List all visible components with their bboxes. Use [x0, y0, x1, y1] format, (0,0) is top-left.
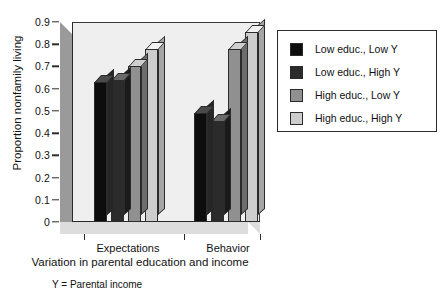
y-axis-tick-label: 0.3: [35, 149, 50, 161]
bar: [94, 82, 107, 222]
y-axis-tick-mark: [52, 21, 59, 22]
y-axis-tick-mark: [52, 155, 59, 156]
x-axis-tick-mark: [184, 234, 185, 240]
legend-label: High educ., Low Y: [315, 89, 400, 101]
legend-item[interactable]: High educ., Low Y: [290, 88, 400, 102]
bar-side: [107, 69, 114, 215]
y-axis-tick-label: 0.8: [35, 38, 50, 50]
legend-label: Low educ., High Y: [315, 66, 400, 78]
legend-swatch: [290, 89, 303, 102]
x-axis-category-label: Expectations: [97, 242, 160, 254]
y-axis-tick-label: 0.4: [35, 127, 50, 139]
bar-side: [224, 108, 231, 215]
y-axis: 00.10.20.30.40.50.60.70.80.9: [0, 22, 60, 234]
bar-side: [124, 66, 131, 215]
y-axis-tick-mark: [52, 44, 59, 45]
legend-item[interactable]: High educ., High Y: [290, 111, 402, 125]
legend-swatch: [290, 43, 303, 56]
legend-label: High educ., High Y: [315, 112, 402, 124]
legend-item[interactable]: Low educ., High Y: [290, 65, 400, 79]
y-axis-tick-mark: [52, 199, 59, 200]
bar-side: [158, 35, 165, 215]
bar-side: [241, 35, 248, 215]
bar-side: [207, 100, 214, 215]
bar: [194, 113, 207, 222]
y-axis-tick-mark: [52, 177, 59, 178]
legend-swatch: [290, 66, 303, 79]
y-axis-tick-label: 0.6: [35, 83, 50, 95]
y-axis-tick-label: 0.2: [35, 172, 50, 184]
x-axis-category-label: Behavior: [206, 242, 249, 254]
plot-floor: [60, 222, 260, 234]
chart-plot-area: [60, 22, 260, 234]
figure: 00.10.20.30.40.50.60.70.80.9 Proportion …: [0, 0, 447, 296]
y-axis-tick-label: 0.5: [35, 105, 50, 117]
y-axis-title: Proportion nonfamily living: [11, 8, 23, 198]
y-axis-tick-mark: [52, 88, 59, 89]
bars-layer: [72, 22, 260, 222]
y-axis-tick-label: 0.1: [35, 194, 50, 206]
legend-label: Low educ., Low Y: [315, 43, 398, 55]
legend-swatch: [290, 112, 303, 125]
y-axis-tick-label: 0.9: [35, 16, 50, 28]
bar-side: [258, 19, 265, 215]
legend-item[interactable]: Low educ., Low Y: [290, 42, 398, 56]
x-axis: ExpectationsBehavior: [60, 234, 260, 274]
y-axis-tick-mark: [52, 221, 59, 222]
y-axis-tick-label: 0.7: [35, 60, 50, 72]
y-axis-tick-mark: [52, 132, 59, 133]
y-axis-tick-mark: [52, 110, 59, 111]
y-axis-tick-label: 0: [44, 216, 50, 228]
chart-footnote: Y = Parental income: [52, 279, 142, 290]
x-axis-title: Variation in parental education and inco…: [0, 256, 280, 268]
bar-face: [94, 82, 107, 222]
x-axis-tick-mark: [84, 234, 85, 240]
x-axis-tick-mark: [260, 234, 261, 240]
chart-legend: Low educ., Low YLow educ., High YHigh ed…: [277, 30, 437, 132]
y-axis-tick-mark: [52, 66, 59, 67]
bar-side: [141, 53, 148, 215]
bar-face: [194, 113, 207, 222]
